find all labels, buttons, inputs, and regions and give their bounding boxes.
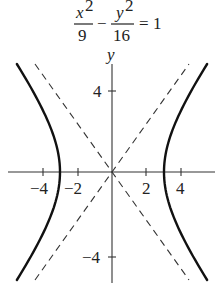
x-tick-label-neg4: −4 — [30, 179, 49, 198]
x-tick-label-4: 4 — [176, 179, 185, 198]
x-tick-label-2: 2 — [142, 179, 151, 198]
y-tick-label-4: 4 — [93, 82, 102, 101]
y-axis-label: y — [105, 45, 115, 64]
x-tick-label-neg2: −2 — [64, 179, 82, 198]
hyperbola-plot: −4 −2 2 4 4 −4 y — [0, 0, 219, 284]
y-tick-label-neg4: −4 — [82, 248, 101, 267]
